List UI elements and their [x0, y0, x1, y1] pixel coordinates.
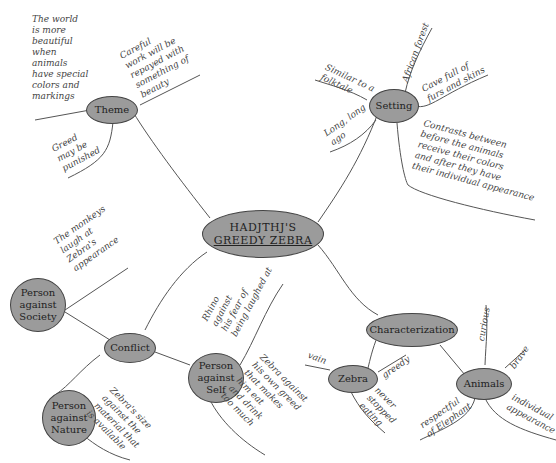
central-title-line2: GREEDY ZEBRA [214, 234, 313, 247]
characterization-label: Characterization [369, 324, 454, 336]
zebra-node[interactable]: Zebra [328, 365, 378, 393]
society-label: Person against Society [19, 287, 56, 323]
conflict-label: Conflict [110, 342, 150, 354]
setting-node[interactable]: Setting [369, 89, 419, 123]
central-topic-node[interactable]: HADJTHJ'S GREEDY ZEBRA [202, 210, 324, 258]
animals-node[interactable]: Animals [456, 368, 512, 400]
central-title-line1: HADJTHJ'S [214, 221, 313, 234]
characterization-node[interactable]: Characterization [366, 313, 458, 347]
setting-label: Setting [376, 100, 413, 112]
nature-label: Person against Nature [50, 400, 87, 436]
theme-label: Theme [95, 104, 129, 116]
zebra-label: Zebra [338, 373, 368, 385]
note-theme-world: The world is more beautiful when animals… [32, 14, 88, 102]
animals-label: Animals [464, 378, 505, 390]
person-against-society-node[interactable]: Person against Society [10, 278, 66, 332]
theme-node[interactable]: Theme [86, 96, 138, 124]
conflict-node[interactable]: Conflict [104, 333, 156, 363]
